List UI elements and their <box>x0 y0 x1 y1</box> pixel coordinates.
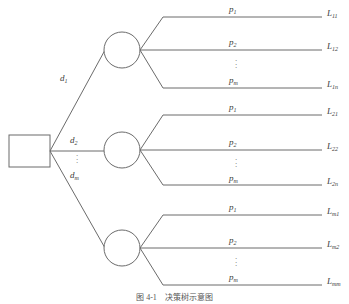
probability-label-3-1: p1 <box>229 203 237 212</box>
probability-label-1-2: p2 <box>229 38 237 47</box>
probability-label-2-2: p2 <box>229 138 237 147</box>
branch-ellipsis: ... <box>73 153 81 164</box>
probability-ellipsis-2: ... <box>232 157 240 168</box>
probability-label-1-3: pm <box>229 76 238 85</box>
branch-label-dm: dm <box>70 171 79 180</box>
probability-ellipsis-3: ... <box>232 256 240 267</box>
payoff-label-1-3: L1n <box>327 80 338 89</box>
payoff-label-1-2: L12 <box>327 42 338 51</box>
payoff-label-3-3: Lmm <box>327 277 341 286</box>
branch-label-d1: d1 <box>60 74 68 83</box>
probability-label-3-3: pm <box>229 273 238 282</box>
probability-label-2-1: p1 <box>229 103 237 112</box>
probability-ellipsis-1: ... <box>232 58 240 69</box>
probability-label-2-3: pm <box>229 174 238 183</box>
branch-dm <box>50 151 105 248</box>
payoff-label-3-1: Lm1 <box>327 207 339 216</box>
payoff-label-3-2: Lm2 <box>327 240 339 249</box>
probability-label-1-1: p1 <box>229 5 237 14</box>
payoff-label-2-2: L22 <box>327 142 338 151</box>
payoff-label-1-1: L11 <box>327 9 338 18</box>
root-decision-node <box>9 135 50 167</box>
payoff-label-2-3: L2n <box>327 177 338 186</box>
branch-d1 <box>50 50 105 151</box>
chance-node-3 <box>104 230 140 266</box>
chance-node-2 <box>104 132 140 168</box>
probability-label-3-2: p2 <box>229 236 237 245</box>
figure-canvas: d1 d2 ... dm p1 p2 ... pm L11 L12 L1n p1… <box>0 0 349 304</box>
chance-node-1 <box>104 32 140 68</box>
decision-tree-graphic <box>0 0 349 304</box>
payoff-label-2-1: L21 <box>327 107 338 116</box>
branch-label-d2: d2 <box>70 136 78 145</box>
figure-caption: 图 4-1 决策树示意图 <box>0 291 349 304</box>
